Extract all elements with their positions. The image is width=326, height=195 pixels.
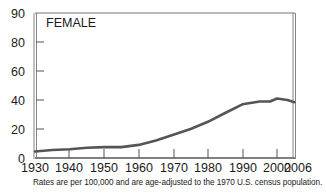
y-tick-label: 90 [11,7,25,21]
data-series [35,99,294,152]
panel-label: FEMALE [46,16,96,30]
x-tick-label: 1990 [229,161,257,175]
footnote: Rates are per 100,000 and are age-adjust… [33,178,322,187]
x-tick-label: 1940 [55,161,83,175]
chart-svg: 02040608090 1930194019501960197019801990… [0,0,326,195]
y-axis: 02040608090 [11,7,44,166]
x-axis: 193019401950196019701980199020002006 [21,149,312,175]
y-tick-label: 40 [11,94,25,108]
x-tick-label: 1930 [21,161,49,175]
x-tick-label: 1970 [160,161,188,175]
y-tick-label: 20 [11,123,25,137]
y-tick-label: 60 [11,65,25,79]
x-tick-label: 1980 [194,161,222,175]
series-line-female [35,99,294,152]
y-tick-label: 80 [11,36,25,50]
x-tick-label: 2006 [284,161,312,175]
x-tick-label: 1960 [125,161,153,175]
x-tick-label: 1950 [90,161,118,175]
